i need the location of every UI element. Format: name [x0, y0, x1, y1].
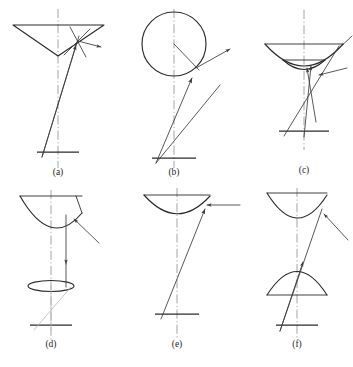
- panel-b-incident-ray-extension: [156, 85, 220, 163]
- panel-c-incident-ray-extension: [336, 36, 352, 51]
- panel-a-label: (a): [53, 167, 64, 178]
- panel-c-incident-ray: [284, 46, 339, 136]
- panel-a-surface-normal: [70, 27, 86, 57]
- panel-e-reflected-ray: [161, 209, 205, 319]
- panel-b-label: (b): [168, 167, 179, 178]
- panel-a: (a): [13, 9, 104, 178]
- panel-c: (c): [265, 10, 352, 176]
- panel-b-radius-line: [174, 44, 199, 70]
- panel-d-diverging-ray: [34, 287, 71, 330]
- panel-a-normal-cross: [64, 29, 90, 55]
- panel-d-label: (d): [45, 339, 56, 350]
- panel-a-cone-reflector: [13, 25, 104, 56]
- panel-e: (e): [144, 188, 240, 350]
- panel-e-label: (e): [172, 339, 183, 350]
- panel-f: (f): [267, 188, 348, 350]
- reflector-configurations-figure: (a) (b) (c): [0, 0, 353, 367]
- figure-root: (a) (b) (c): [0, 0, 353, 367]
- panel-c-label: (c): [299, 165, 310, 176]
- panel-f-feed-ray: [324, 214, 348, 240]
- panel-b: (b): [142, 9, 230, 178]
- panel-f-label: (f): [292, 339, 302, 350]
- panel-d-rim-edge: [76, 196, 82, 213]
- panel-d-incident-ray: [74, 219, 99, 243]
- panel-b-reflected-ray: [196, 49, 230, 68]
- panel-d: (d): [20, 190, 99, 350]
- panel-a-reflected-ray: [78, 41, 101, 47]
